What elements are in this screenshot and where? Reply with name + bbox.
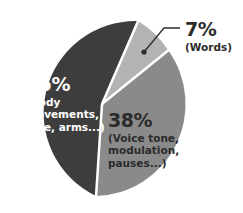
label-voice-line2: modulation, <box>108 144 179 157</box>
label-voice-pct: 38% <box>108 109 179 132</box>
label-voice-line3: pauses...) <box>108 157 179 170</box>
label-body-line3: face, arms...) <box>26 121 105 134</box>
label-body: 55% (Body movements, face, arms...) <box>26 73 105 134</box>
label-body-pct: 55% <box>26 73 105 96</box>
label-voice: 38% (Voice tone, modulation, pauses...) <box>108 109 179 170</box>
label-voice-line1: (Voice tone, <box>108 132 179 145</box>
label-body-line1: (Body <box>26 96 105 109</box>
label-body-line2: movements, <box>26 108 105 121</box>
label-words-pct: 7% <box>185 18 232 41</box>
label-words: 7% (Words) <box>185 18 232 53</box>
label-words-line1: (Words) <box>185 41 232 54</box>
words-leader-dot <box>141 49 146 54</box>
